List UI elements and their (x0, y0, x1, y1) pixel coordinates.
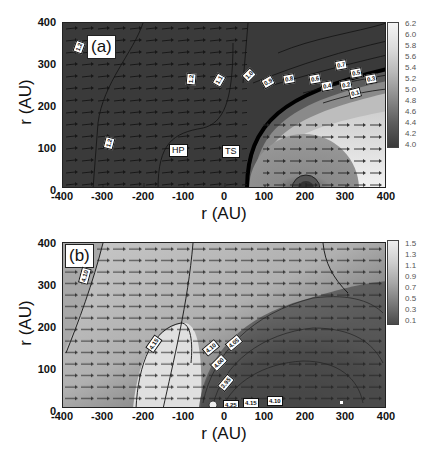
contour-label: 0.4 (320, 80, 334, 92)
colorbar-tick: 4.8 (405, 96, 416, 106)
x-tick: 200 (285, 410, 325, 422)
contour-label: 4.15 (243, 398, 259, 408)
x-tick: 0 (204, 410, 244, 422)
colorbar-tick: 1.5 (405, 239, 416, 249)
termination-shock-label: TS (222, 145, 240, 158)
x-tick: -100 (163, 190, 203, 202)
x-tick: -100 (163, 410, 203, 422)
x-tick: 300 (325, 190, 365, 202)
y-tick: 100 (0, 142, 56, 154)
x-tick: 400 (366, 410, 406, 422)
panel-label-b: (b) (65, 244, 94, 268)
x-tick: -400 (42, 190, 82, 202)
contour-label: 0.5 (349, 67, 363, 79)
colorbar-tick: 6.0 (405, 30, 416, 40)
colorbar-tick: 0.5 (405, 294, 416, 304)
x-tick: 200 (285, 190, 325, 202)
colorbar-tick: 1.1 (405, 261, 416, 271)
x-tick: -400 (42, 410, 82, 422)
y-axis-label: r (AU) (16, 62, 36, 142)
colorbar-b (387, 240, 399, 325)
colorbar-tick: 5.2 (405, 74, 416, 84)
contour-label: 0.7 (334, 59, 348, 71)
contour-label: 0.8 (282, 73, 296, 85)
colorbar-tick: 0.9 (405, 272, 416, 282)
colorbar-a (387, 22, 399, 148)
contour-label: 4.25 (223, 400, 239, 408)
y-tick: 100 (0, 363, 56, 375)
x-tick: 400 (366, 190, 406, 202)
x-tick: -300 (82, 410, 122, 422)
colorbar-tick: 5.8 (405, 41, 416, 51)
colorbar-tick: 4.2 (405, 129, 416, 139)
colorbar-tick: 4.6 (405, 107, 416, 117)
contour-label: 1.2 (186, 72, 197, 85)
colorbar-tick: 0.7 (405, 283, 416, 293)
y-tick: 400 (0, 16, 56, 28)
x-tick: 100 (244, 190, 284, 202)
panel-label-a: (a) (87, 35, 116, 59)
colorbar-tick: 5.4 (405, 63, 416, 73)
colorbar-tick: 4.0 (405, 140, 416, 150)
plot-area-a: (a) HP TS 1.2 1.2 1.2 1.1 1.0 0.9 0.8 0.… (62, 22, 386, 188)
x-tick: -300 (82, 190, 122, 202)
contour-label: 0.3 (364, 73, 378, 85)
colorbar-tick: 1.3 (405, 250, 416, 260)
colorbar-tick: 5.0 (405, 85, 416, 95)
contour-label: 4.10 (267, 396, 283, 406)
panel-a: 400 300 200 100 0 r (AU) (0, 0, 436, 231)
x-tick: -200 (123, 190, 163, 202)
colorbar-tick: 5.6 (405, 52, 416, 62)
x-tick: 100 (244, 410, 284, 422)
heliopause-label: HP (169, 144, 188, 157)
x-axis-label: r (AU) (174, 424, 274, 444)
colorbar-tick: 0.3 (405, 305, 416, 315)
colorbar-tick: 4.4 (405, 118, 416, 128)
x-tick: 0 (204, 190, 244, 202)
x-axis-label: r (AU) (174, 204, 274, 224)
colorbar-tick: 6.2 (405, 19, 416, 29)
y-tick: 400 (0, 237, 56, 249)
panel-b: 400 300 200 100 0 r (AU) (0, 231, 436, 462)
y-axis-label: r (AU) (16, 283, 36, 363)
colorbar-tick: 0.1 (405, 316, 416, 326)
plot-area-b: (b) 4.10 4.15 4.10 4.05 4.00 3.95 4.25 4… (62, 242, 386, 408)
x-tick: 300 (325, 410, 365, 422)
x-tick: -200 (123, 410, 163, 422)
